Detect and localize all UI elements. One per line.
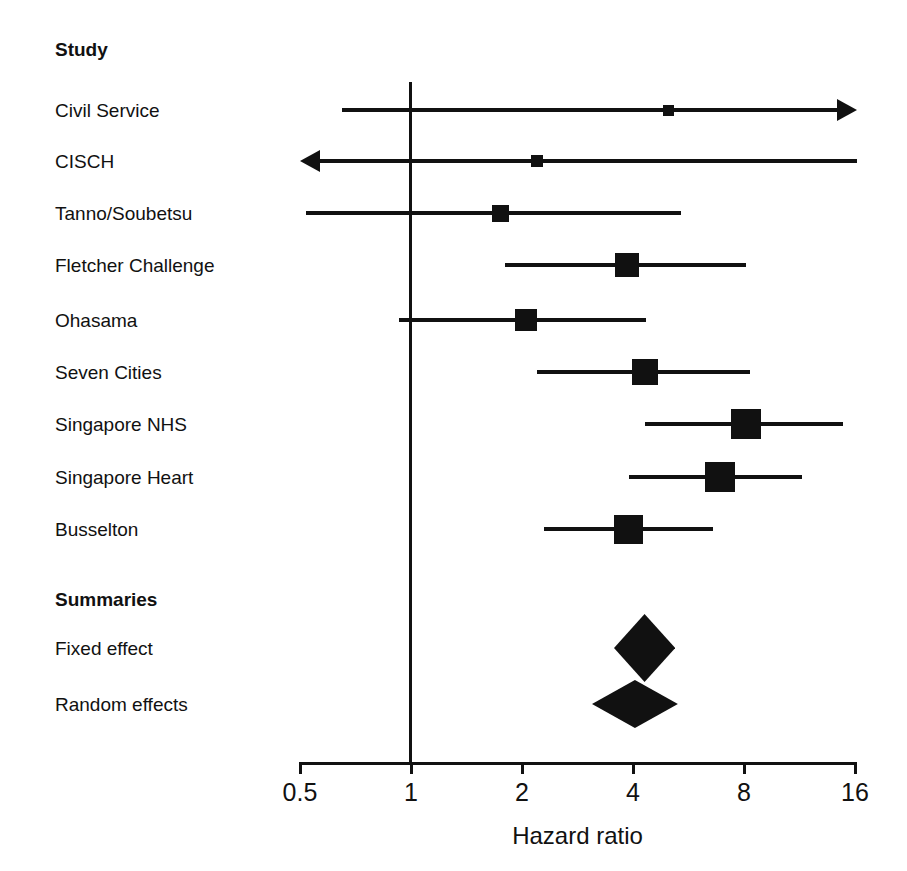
reference-line-hr-1 xyxy=(409,82,412,762)
effect-estimate-marker xyxy=(615,253,639,277)
effect-estimate-marker xyxy=(614,515,643,544)
summaries-section-header: Summaries xyxy=(55,590,157,609)
study-label: Singapore Heart xyxy=(55,468,193,487)
study-label: Busselton xyxy=(55,520,138,539)
effect-estimate-marker xyxy=(531,155,543,167)
x-axis-tick-label: 1 xyxy=(371,780,451,805)
effect-estimate-marker xyxy=(632,359,658,385)
x-axis-tick-label: 2 xyxy=(482,780,562,805)
x-axis-tick-label: 8 xyxy=(704,780,784,805)
summary-diamond xyxy=(614,614,675,682)
ci-arrow-right-icon xyxy=(837,99,857,121)
study-label: Civil Service xyxy=(55,101,160,120)
x-axis-tick xyxy=(632,762,635,774)
x-axis-tick-label: 16 xyxy=(815,780,895,805)
effect-estimate-marker xyxy=(705,462,735,492)
study-label: CISCH xyxy=(55,152,114,171)
effect-estimate-marker xyxy=(492,205,509,222)
summary-label: Random effects xyxy=(55,695,188,714)
effect-estimate-marker xyxy=(515,309,537,331)
study-column-header: Study xyxy=(55,40,108,59)
x-axis-tick-label: 4 xyxy=(593,780,673,805)
x-axis-tick xyxy=(854,762,857,774)
effect-estimate-marker xyxy=(731,409,761,439)
study-label: Fletcher Challenge xyxy=(55,256,214,275)
study-label: Tanno/Soubetsu xyxy=(55,204,192,223)
effect-estimate-marker xyxy=(663,105,674,116)
summary-label: Fixed effect xyxy=(55,639,153,658)
summary-diamond xyxy=(592,680,678,728)
forest-plot: Study Summaries Civil ServiceCISCHTanno/… xyxy=(0,0,907,871)
x-axis-title: Hazard ratio xyxy=(300,824,855,848)
ci-arrow-left-icon xyxy=(300,150,320,172)
x-axis-tick xyxy=(299,762,302,774)
study-label: Seven Cities xyxy=(55,363,162,382)
x-axis-tick xyxy=(743,762,746,774)
x-axis-tick xyxy=(521,762,524,774)
x-axis-tick xyxy=(410,762,413,774)
study-label: Singapore NHS xyxy=(55,415,187,434)
x-axis-line xyxy=(300,762,855,765)
confidence-interval-line xyxy=(317,159,857,163)
confidence-interval-line xyxy=(342,108,840,112)
study-label: Ohasama xyxy=(55,311,137,330)
x-axis-tick-label: 0.5 xyxy=(260,780,340,805)
